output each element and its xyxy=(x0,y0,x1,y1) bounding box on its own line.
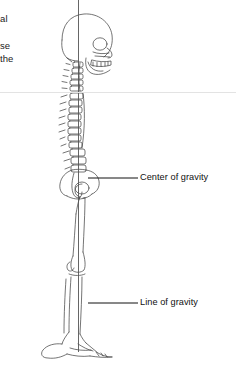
tibia xyxy=(69,277,82,334)
femur xyxy=(71,184,85,272)
skeleton-figure: al se the xyxy=(0,0,236,367)
text-fragment-3: the xyxy=(0,53,14,64)
lumbar-spine xyxy=(63,149,86,172)
callout-label-center-of-gravity: Center of gravity xyxy=(140,172,208,183)
callout-label-line-of-gravity: Line of gravity xyxy=(140,297,198,308)
skeleton-drawing xyxy=(0,0,236,367)
cervical-spine xyxy=(62,62,83,91)
cranium xyxy=(62,14,113,62)
knee-joint xyxy=(69,274,85,276)
patella xyxy=(67,262,74,271)
text-fragment-2: se xyxy=(0,40,10,51)
thoracic-spine xyxy=(59,93,84,148)
text-fragment-1: al xyxy=(0,13,8,24)
foot xyxy=(42,332,112,358)
page-divider xyxy=(0,92,236,93)
fibula xyxy=(64,279,66,333)
